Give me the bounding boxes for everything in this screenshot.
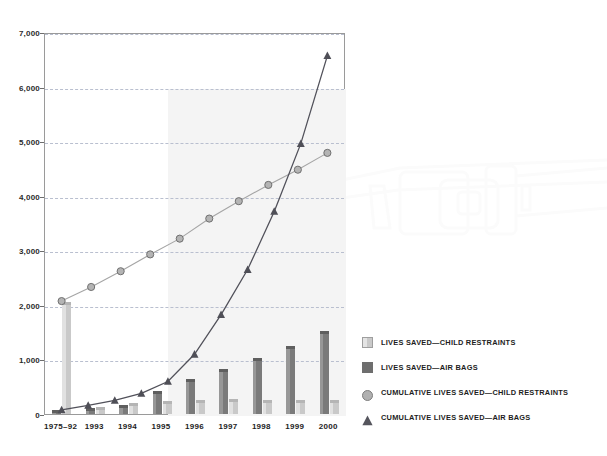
y-axis-tick-mark xyxy=(40,306,44,307)
legend-item-cumulative-air-bags: CUMULATIVE LIVES SAVED—AIR BAGS xyxy=(362,405,602,430)
marker-cumulative-air-bags xyxy=(297,139,305,147)
legend-label: LIVES SAVED—CHILD RESTRAINTS xyxy=(381,338,516,347)
square-dark-icon xyxy=(362,362,373,373)
marker-cumulative-child-restraints xyxy=(58,298,65,305)
x-axis-tick-label: 1975–92 xyxy=(44,422,77,431)
legend-item-air-bags: LIVES SAVED—AIR BAGS xyxy=(362,355,602,380)
marker-cumulative-air-bags xyxy=(244,265,252,273)
seat-belt-watermark xyxy=(340,120,607,280)
marker-cumulative-child-restraints xyxy=(176,235,183,242)
legend-label: LIVES SAVED—AIR BAGS xyxy=(381,363,478,372)
y-axis-tick-mark xyxy=(40,33,44,34)
legend-item-cumulative-child-restraints: CUMULATIVE LIVES SAVED—CHILD RESTRAINTS xyxy=(362,380,602,405)
y-axis-tick-label: 2,000 xyxy=(2,301,40,310)
y-axis-tick-mark xyxy=(40,415,44,416)
x-axis-tick-label: 1995 xyxy=(152,422,171,431)
legend-label: CUMULATIVE LIVES SAVED—AIR BAGS xyxy=(381,413,531,422)
marker-cumulative-air-bags xyxy=(323,52,331,60)
marker-cumulative-child-restraints xyxy=(147,251,154,258)
circle-icon xyxy=(362,387,373,398)
y-axis-tick-mark xyxy=(40,88,44,89)
y-axis-tick-label: 1,000 xyxy=(2,356,40,365)
marker-cumulative-child-restraints xyxy=(117,268,124,275)
x-axis-tick-label: 2000 xyxy=(319,422,338,431)
series-lines xyxy=(45,34,344,414)
y-axis-tick-mark xyxy=(40,142,44,143)
square-light-icon xyxy=(362,337,373,348)
x-axis-tick-label: 1996 xyxy=(185,422,204,431)
line-cumulative-child-restraints xyxy=(62,153,328,301)
legend-item-child-restraints: LIVES SAVED—CHILD RESTRAINTS xyxy=(362,330,602,355)
y-axis-tick-label: 7,000 xyxy=(2,29,40,38)
y-axis-tick-label: 4,000 xyxy=(2,192,40,201)
x-axis-tick-label: 1997 xyxy=(218,422,237,431)
triangle-icon xyxy=(362,412,373,423)
marker-cumulative-child-restraints xyxy=(235,198,242,205)
x-axis-tick-label: 1998 xyxy=(252,422,271,431)
marker-cumulative-air-bags xyxy=(137,389,145,397)
y-axis-tick-mark xyxy=(40,251,44,252)
marker-cumulative-air-bags xyxy=(217,310,225,318)
chart-page: 01,0002,0003,0004,0005,0006,0007,000 197… xyxy=(0,0,607,456)
marker-cumulative-child-restraints xyxy=(265,181,272,188)
marker-cumulative-child-restraints xyxy=(206,215,213,222)
x-axis-tick-label: 1999 xyxy=(285,422,304,431)
chart-legend: LIVES SAVED—CHILD RESTRAINTS LIVES SAVED… xyxy=(362,330,602,430)
y-axis-tick-mark xyxy=(40,360,44,361)
marker-cumulative-child-restraints xyxy=(324,149,331,156)
marker-cumulative-air-bags xyxy=(270,207,278,215)
y-axis-tick-label: 5,000 xyxy=(2,138,40,147)
x-axis-tick-label: 1993 xyxy=(85,422,104,431)
y-axis-tick-label: 3,000 xyxy=(2,247,40,256)
legend-label: CUMULATIVE LIVES SAVED—CHILD RESTRAINTS xyxy=(381,388,568,397)
y-axis-tick-label: 0 xyxy=(2,411,40,420)
plot-area xyxy=(44,33,345,415)
y-axis-tick-mark xyxy=(40,197,44,198)
x-axis-tick-label: 1994 xyxy=(118,422,137,431)
y-axis-tick-label: 6,000 xyxy=(2,83,40,92)
marker-cumulative-child-restraints xyxy=(88,283,95,290)
marker-cumulative-child-restraints xyxy=(294,166,301,173)
